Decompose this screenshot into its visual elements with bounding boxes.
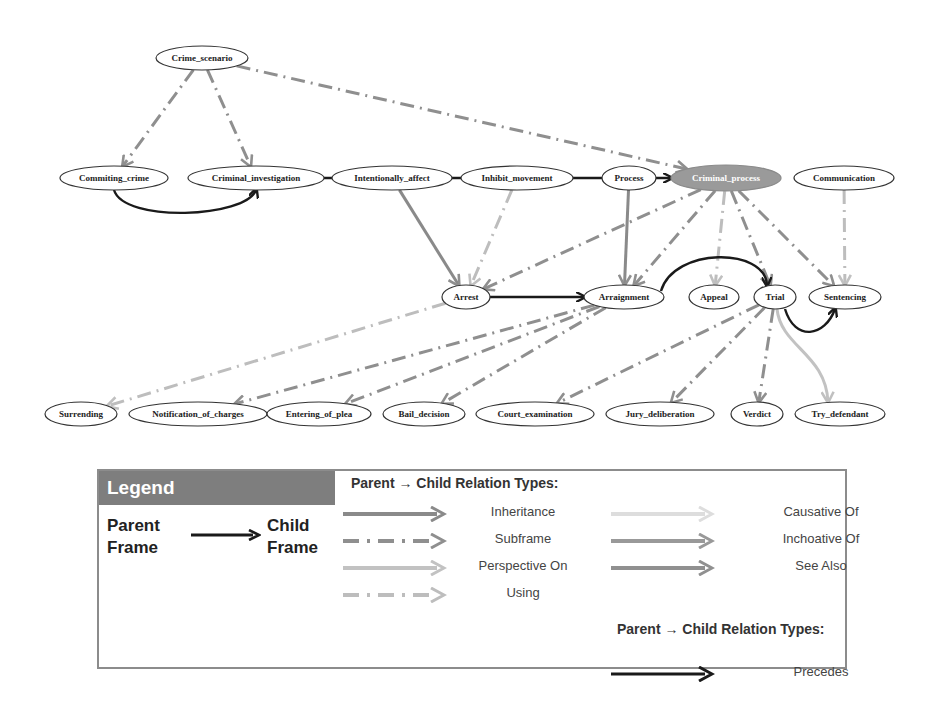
- using-arrow-icon: [343, 587, 447, 603]
- edge-subframe-crime-scenario-to-criminal-process: [237, 66, 687, 169]
- node-label: Arraignment: [599, 292, 650, 302]
- node-label: Notification_of_charges: [152, 409, 244, 419]
- frame-node-entering-of-plea[interactable]: Entering_of_plea: [267, 402, 371, 426]
- edge-using-arrest-to-surrending: [108, 303, 446, 406]
- legend-item-see-also: See Also: [611, 558, 891, 578]
- frame-node-arraignment[interactable]: Arraignment: [584, 285, 664, 309]
- edge-subframe-trial-to-verdict: [759, 309, 773, 402]
- legend-frame-word: Frame: [107, 537, 160, 559]
- node-label: Bail_decision: [398, 409, 449, 419]
- frame-node-commiting-crime[interactable]: Commiting_crime: [60, 166, 168, 190]
- edge-precedes-commiting-crime-to-criminal-investigation: [114, 190, 256, 213]
- legend-item-label: Subframe: [463, 531, 583, 546]
- legend-item-label: Using: [463, 585, 583, 600]
- node-label: Appeal: [700, 292, 728, 302]
- legend-parent-child-arrow-icon: [191, 529, 261, 541]
- legend-child-frame: Child Frame: [267, 515, 318, 559]
- legend-item-label: Precedes: [761, 664, 881, 679]
- nodes-layer: Crime_scenarioCommiting_crimeCriminal_in…: [45, 46, 894, 426]
- legend-child-word: Child: [267, 515, 318, 537]
- edge-subframe-crime-scenario-to-commiting-crime: [123, 70, 194, 166]
- causative-of-arrow-icon: [611, 506, 715, 522]
- legend-parent-frame: Parent Frame: [107, 515, 160, 559]
- node-label: Commiting_crime: [79, 173, 149, 183]
- legend-frame-word: Frame: [267, 537, 318, 559]
- legend-item-label: Perspective On: [463, 558, 583, 573]
- legend-item-label: Causative Of: [761, 504, 881, 519]
- edge-subframe-criminal-process-to-trial: [731, 191, 770, 285]
- frame-node-appeal[interactable]: Appeal: [689, 285, 739, 309]
- edge-subframe-crime-scenario-to-criminal-investigation: [207, 70, 250, 166]
- edge-subframe-criminal-process-to-sentencing: [739, 191, 834, 286]
- edge-using-communication-to-sentencing: [844, 190, 845, 285]
- node-label: Inhibit_movement: [481, 173, 552, 183]
- frame-node-communication[interactable]: Communication: [794, 166, 894, 190]
- precedes-arrow-icon: [611, 666, 715, 682]
- frame-node-arrest[interactable]: Arrest: [442, 285, 490, 309]
- node-label: Criminal_investigation: [212, 173, 301, 183]
- frame-node-trial[interactable]: Trial: [754, 285, 796, 309]
- frame-node-intentionally-affect[interactable]: Intentionally_affect: [332, 166, 452, 190]
- edge-subframe-arraignment-to-notification-of-charges: [235, 305, 595, 404]
- inheritance-arrow-icon: [343, 506, 447, 522]
- edge-perspective-on-trial-to-try-defendant: [777, 309, 828, 402]
- node-label: Jury_deliberation: [626, 409, 695, 419]
- legend-item-causative-of: Causative Of: [611, 504, 891, 524]
- edge-subframe-criminal-process-to-arrest: [484, 190, 701, 289]
- legend-item-inchoative-of: Inchoative Of: [611, 531, 891, 551]
- subframe-arrow-icon: [343, 533, 447, 549]
- frame-node-bail-decision[interactable]: Bail_decision: [383, 402, 465, 426]
- legend-precedes-title: Parent → Child Relation Types:: [617, 621, 824, 637]
- frame-relation-graph: Crime_scenarioCommiting_crimeCriminal_in…: [0, 0, 940, 460]
- node-label: Intentionally_affect: [354, 173, 430, 183]
- node-label: Verdict: [743, 409, 771, 419]
- frame-node-inhibit-movement[interactable]: Inhibit_movement: [461, 166, 573, 190]
- legend-item-label: See Also: [761, 558, 881, 573]
- frame-node-process[interactable]: Process: [602, 166, 656, 190]
- legend-item-label: Inchoative Of: [761, 531, 881, 546]
- legend-relation-types-title: Parent → Child Relation Types:: [351, 475, 558, 491]
- edge-subframe-arraignment-to-bail-decision: [442, 308, 605, 404]
- frame-node-criminal-investigation[interactable]: Criminal_investigation: [188, 166, 324, 190]
- legend-item-using: Using: [343, 585, 593, 605]
- edge-inheritance-intentionally-affect-to-arrest: [399, 190, 459, 286]
- node-label: Arrest: [454, 292, 479, 302]
- legend-panel: Legend Parent Frame Child Frame Parent →…: [97, 469, 847, 669]
- node-label: Communication: [813, 173, 875, 183]
- node-label: Try_defendant: [812, 409, 869, 419]
- legend-header: Legend: [99, 471, 335, 505]
- legend-item-perspective-on: Perspective On: [343, 558, 593, 578]
- frame-node-court-examination[interactable]: Court_examination: [476, 402, 594, 426]
- see-also-arrow-icon: [611, 560, 715, 576]
- edge-inheritance-process-to-arraignment: [625, 190, 629, 285]
- node-label: Trial: [766, 292, 785, 302]
- node-label: Entering_of_plea: [286, 409, 353, 419]
- edge-precedes-trial-to-sentencing: [785, 309, 835, 332]
- frame-node-notification-of-charges[interactable]: Notification_of_charges: [129, 402, 267, 426]
- frame-node-sentencing[interactable]: Sentencing: [809, 285, 881, 309]
- node-label: Court_examination: [498, 409, 573, 419]
- node-label: Process: [615, 173, 644, 183]
- node-label: Sentencing: [824, 292, 867, 302]
- node-label: Crime_scenario: [172, 53, 233, 63]
- edge-using-inhibit-movement-to-arrest: [471, 190, 512, 285]
- frame-node-jury-deliberation[interactable]: Jury_deliberation: [606, 402, 714, 426]
- edges-layer: [108, 66, 845, 406]
- node-label: Criminal_process: [692, 173, 760, 183]
- inchoative-of-arrow-icon: [611, 533, 715, 549]
- node-label: Surrending: [59, 409, 103, 419]
- frame-node-try-defendant[interactable]: Try_defendant: [795, 402, 885, 426]
- legend-parent-word: Parent: [107, 515, 160, 537]
- edge-subframe-trial-to-jury-deliberation: [672, 308, 765, 403]
- frame-node-criminal-process[interactable]: Criminal_process: [671, 165, 781, 191]
- legend-item-label: Inheritance: [463, 504, 583, 519]
- frame-node-crime-scenario[interactable]: Crime_scenario: [156, 46, 248, 70]
- frame-node-verdict[interactable]: Verdict: [731, 402, 783, 426]
- legend-item-inheritance: Inheritance: [343, 504, 593, 524]
- edge-using-criminal-process-to-appeal: [715, 191, 725, 285]
- frame-node-surrending[interactable]: Surrending: [45, 402, 117, 426]
- perspective-on-arrow-icon: [343, 560, 447, 576]
- legend-item-precedes: Precedes: [611, 664, 891, 684]
- legend-item-subframe: Subframe: [343, 531, 593, 551]
